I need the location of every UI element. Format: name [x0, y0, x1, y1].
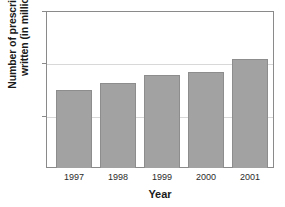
bar-1999: [144, 75, 180, 168]
bar-chart-figure: Number of prescriptions written (in mill…: [0, 0, 285, 207]
bar-1998: [100, 83, 136, 168]
bar-1997: [56, 90, 92, 169]
x-tick-label-1998: 1998: [108, 172, 128, 182]
x-tick-label-1997: 1997: [64, 172, 84, 182]
y-axis-title-line-1: Number of prescriptions: [6, 0, 18, 89]
x-tick-label-1999: 1999: [152, 172, 172, 182]
y-axis-title: Number of prescriptions written (in mill…: [1, 0, 35, 109]
y-axis-title-line-2: written (in millions): [18, 0, 30, 76]
x-tick-label-2001: 2001: [240, 172, 260, 182]
bar-2001: [232, 59, 268, 168]
x-axis-title: Year: [46, 188, 274, 200]
bar-2000: [188, 72, 224, 168]
x-tick-label-2000: 2000: [196, 172, 216, 182]
bar-series: [46, 11, 274, 168]
